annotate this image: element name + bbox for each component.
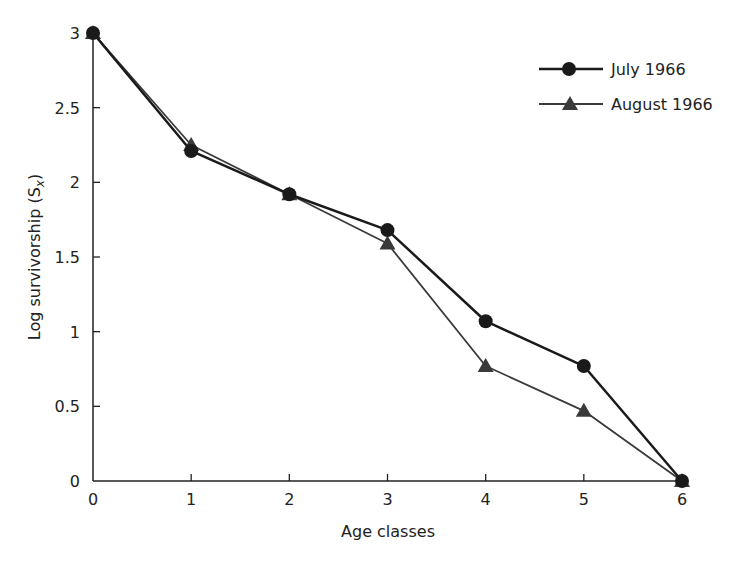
y-tick-label: 2 xyxy=(70,173,80,192)
x-tick-label: 2 xyxy=(284,490,294,509)
x-tick-label: 6 xyxy=(677,490,687,509)
x-axis-title: Age classes xyxy=(341,522,435,541)
circle-marker-icon xyxy=(381,223,395,237)
y-tick-label: 1.5 xyxy=(55,248,80,267)
series-line xyxy=(93,33,682,481)
x-tick-label: 4 xyxy=(481,490,491,509)
series-august-1966 xyxy=(85,25,690,487)
circle-marker-icon xyxy=(479,314,493,328)
y-tick-label: 0 xyxy=(70,472,80,491)
series-layer xyxy=(85,25,690,488)
survivorship-line-chart: 00.511.522.53 0123456 Age classes Log su… xyxy=(0,0,735,561)
circle-marker-icon xyxy=(675,474,689,488)
x-tick-label: 5 xyxy=(579,490,589,509)
circle-marker-icon xyxy=(577,359,591,373)
triangle-marker-icon xyxy=(562,96,578,110)
legend-item-august: August 1966 xyxy=(539,95,713,114)
legend-label-august: August 1966 xyxy=(611,95,713,114)
triangle-marker-icon xyxy=(576,403,592,417)
y-axis-title-suffix: ) xyxy=(25,174,44,180)
circle-marker-icon xyxy=(184,144,198,158)
legend-item-july: July 1966 xyxy=(539,60,686,79)
legend-label-july: July 1966 xyxy=(610,60,686,79)
y-axis-title: Log survivorship (Sx) xyxy=(25,174,47,340)
x-tick-label: 1 xyxy=(186,490,196,509)
y-axis-title-main: Log survivorship (S xyxy=(25,187,44,340)
x-tick-label: 0 xyxy=(88,490,98,509)
circle-marker-icon xyxy=(86,26,100,40)
legend: July 1966 August 1966 xyxy=(539,60,713,114)
y-tick-label: 1 xyxy=(70,323,80,342)
series-line xyxy=(93,33,682,481)
axes xyxy=(93,33,682,481)
y-tick-label: 3 xyxy=(70,24,80,43)
y-tick-label: 0.5 xyxy=(55,397,80,416)
series-july-1966 xyxy=(86,26,689,488)
y-tick-label: 2.5 xyxy=(55,99,80,118)
triangle-marker-icon xyxy=(380,236,396,250)
x-tick-label: 3 xyxy=(382,490,392,509)
circle-marker-icon xyxy=(562,62,576,76)
circle-marker-icon xyxy=(282,187,296,201)
x-ticks: 0123456 xyxy=(88,474,687,509)
